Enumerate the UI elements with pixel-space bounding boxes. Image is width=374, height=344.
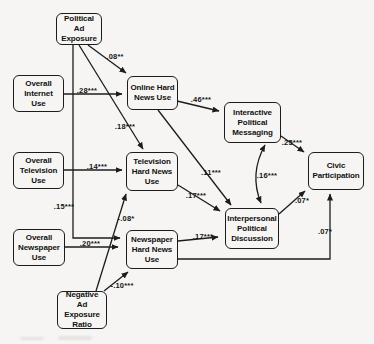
- coef-negative-ad-tv-news: -.08*: [118, 214, 135, 223]
- node-interpersonal-political-discussion: Interpersonal Political Discussion: [225, 208, 279, 249]
- coef-newspaper-civic: .07*: [318, 227, 332, 236]
- coef-political-ad-newspaper: .15***: [54, 202, 74, 211]
- coef-political-ad-television: .18***: [115, 122, 135, 131]
- node-overall-television-use: Overall Television Use: [13, 152, 64, 189]
- coef-messaging-discussion: .16***: [257, 171, 277, 180]
- node-overall-internet-use: Overall Internet Use: [13, 75, 64, 112]
- coef-negative-ad-newspaper: -.10***: [110, 281, 133, 290]
- node-interactive-political-messaging: Interactive Political Messaging: [224, 102, 281, 143]
- coef-political-ad-online: .08**: [106, 52, 123, 61]
- node-political-ad-exposure: Political Ad Exposure: [56, 13, 102, 45]
- coef-tv-news-discussion: .17***: [186, 191, 206, 200]
- coef-online-discussion: .11***: [201, 168, 221, 177]
- coef-online-messaging: .46***: [191, 95, 211, 104]
- coef-newspaper-discussion: .17***: [193, 232, 213, 241]
- coef-newspaper-use-news: .20***: [80, 239, 100, 248]
- coef-discussion-civic: .07*: [295, 196, 309, 205]
- path-model-diagram: Political Ad Exposure Overall Internet U…: [0, 0, 374, 344]
- coef-internet-online: .28***: [77, 86, 97, 95]
- node-newspaper-hard-news-use: Newspaper Hard News Use: [126, 230, 178, 269]
- node-civic-participation: Civic Participation: [308, 152, 364, 190]
- node-negative-ad-exposure-ratio: Negative Ad Exposure Ratio: [57, 291, 107, 329]
- coef-messaging-civic: .25***: [282, 138, 302, 147]
- node-online-hard-news-use: Online Hard News Use: [127, 76, 178, 110]
- node-overall-newspaper-use: Overall Newspaper Use: [13, 229, 65, 266]
- coef-television-use-tv-news: .14***: [87, 162, 107, 171]
- node-television-hard-news-use: Television Hard News Use: [126, 152, 178, 191]
